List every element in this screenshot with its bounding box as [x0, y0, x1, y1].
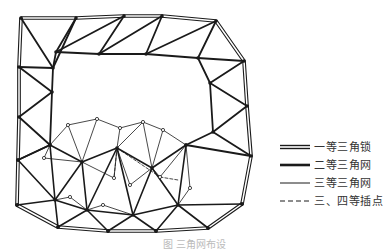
- legend: 一等三角锁 二等三角网 三等三角网 三、四等插点: [280, 137, 389, 209]
- control-point: [160, 14, 164, 18]
- chain-edge: [99, 16, 162, 54]
- chain-edge: [210, 83, 213, 132]
- second-order-edge: [152, 145, 186, 168]
- control-point: [144, 52, 148, 56]
- chain-edge: [162, 17, 216, 22]
- second-order-edge: [133, 215, 156, 231]
- third-order-edge: [68, 119, 97, 125]
- chain-edge: [146, 21, 216, 54]
- chain-edge: [16, 160, 17, 205]
- insertion-point: [128, 183, 131, 186]
- control-point: [208, 81, 212, 85]
- control-point: [74, 16, 78, 20]
- control-point: [48, 143, 52, 147]
- control-point: [17, 65, 21, 69]
- control-point: [211, 130, 215, 134]
- legend-item-second-order-network: 二等三角网: [280, 155, 389, 173]
- chain-edge: [209, 205, 243, 229]
- control-point: [115, 146, 119, 150]
- control-point: [245, 104, 249, 108]
- insertion-point: [158, 175, 161, 178]
- chain-edge: [217, 20, 245, 60]
- chain-edge: [18, 18, 20, 67]
- legend-item-insertion-points: 三、四等插点: [280, 191, 389, 209]
- control-point: [240, 202, 244, 206]
- control-point: [106, 229, 110, 233]
- control-point: [16, 158, 20, 162]
- insertion-point: [68, 195, 71, 198]
- control-point: [56, 225, 60, 229]
- chain-edge: [210, 61, 244, 83]
- control-point: [176, 203, 180, 207]
- control-point: [15, 203, 19, 207]
- chain-edge: [210, 83, 247, 106]
- second-order-edge: [152, 168, 178, 205]
- chain-edge: [19, 92, 52, 117]
- second-order-edge: [55, 200, 58, 227]
- triangulation-network-diagram: [0, 0, 389, 250]
- chain-edge: [18, 204, 59, 226]
- insertion-point: [141, 120, 144, 123]
- control-point: [131, 213, 135, 217]
- chain-edge: [18, 160, 19, 205]
- legend-label: 一等三角锁: [314, 138, 372, 154]
- insertion-point: [161, 128, 164, 131]
- chain-edge: [19, 117, 50, 145]
- second-order-edge: [55, 200, 87, 210]
- chain-edge: [76, 15, 124, 17]
- control-point: [85, 208, 89, 212]
- insertion-point: [112, 176, 115, 179]
- chain-edge: [56, 52, 99, 54]
- figure-caption: 图 三角网布设: [0, 236, 389, 250]
- second-order-edge: [17, 200, 55, 205]
- chain-edge: [19, 117, 20, 160]
- third-order-edge: [143, 122, 163, 130]
- chain-edge: [19, 67, 52, 92]
- second-order-edge: [18, 160, 55, 200]
- chain-edge: [20, 18, 22, 67]
- legend-label: 三、四等插点: [314, 192, 383, 208]
- chain-edge: [198, 58, 210, 83]
- third-order-edge: [143, 122, 152, 168]
- chain-edge: [198, 21, 216, 58]
- second-order-edge: [82, 162, 87, 210]
- control-point: [150, 166, 154, 170]
- chain-edge: [198, 58, 244, 61]
- third-order-edge: [117, 122, 143, 148]
- legend-label: 三等三角网: [314, 174, 372, 190]
- insertion-point: [66, 123, 69, 126]
- chain-edge: [19, 67, 53, 68]
- legend-item-third-order-network: 三等三角网: [280, 173, 389, 191]
- second-order-edge: [178, 204, 242, 205]
- insertion-point: [188, 186, 191, 189]
- third-order-edge: [97, 119, 120, 128]
- chain-edge: [17, 117, 18, 160]
- dashed-line-icon: [280, 199, 310, 203]
- thin-line-icon: [280, 181, 310, 185]
- third-order-edge: [50, 125, 68, 145]
- chain-edge: [146, 54, 198, 58]
- insertion-edge: [160, 177, 178, 180]
- second-order-edge: [50, 145, 55, 200]
- chain-edge: [215, 22, 243, 62]
- control-point: [19, 16, 23, 20]
- insertion-point: [118, 126, 121, 129]
- second-order-edge: [117, 148, 152, 168]
- control-point: [206, 226, 210, 230]
- chain-edge: [50, 92, 52, 145]
- legend-label: 二等三角网: [314, 156, 372, 172]
- control-point: [17, 115, 21, 119]
- chain-edge: [162, 15, 216, 20]
- thick-line-icon: [280, 163, 310, 167]
- second-order-edge: [55, 162, 82, 200]
- chain-edge: [213, 106, 247, 132]
- control-point: [50, 90, 54, 94]
- control-point: [154, 229, 158, 233]
- third-order-edge: [163, 130, 186, 145]
- second-order-edge: [58, 210, 87, 227]
- second-order-edge: [178, 205, 208, 228]
- insertion-point: [95, 117, 98, 120]
- chain-edge: [186, 132, 213, 145]
- chain-edge: [52, 68, 53, 92]
- control-point: [196, 56, 200, 60]
